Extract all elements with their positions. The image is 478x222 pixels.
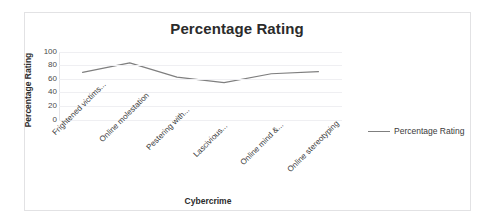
gridline xyxy=(59,106,342,107)
gridline xyxy=(59,92,342,93)
plot-area xyxy=(59,52,342,120)
legend-label: Percentage Rating xyxy=(394,126,464,136)
y-tick-label: 0 xyxy=(53,116,57,124)
y-tick-label: 20 xyxy=(48,102,57,110)
gridline xyxy=(59,120,342,121)
y-tick-label: 40 xyxy=(48,88,57,96)
chart-page: Percentage Rating Percentage Rating 1008… xyxy=(0,0,478,222)
gridline xyxy=(59,65,342,66)
gridline xyxy=(59,79,342,80)
chart-legend: Percentage Rating xyxy=(368,126,464,136)
x-axis-title: Cybercrime xyxy=(133,196,283,206)
y-axis-title: Percentage Rating xyxy=(23,50,33,130)
y-tick-label: 60 xyxy=(48,75,57,83)
cropped-header-text xyxy=(0,0,478,9)
legend-line-marker xyxy=(368,131,390,132)
chart-title: Percentage Rating xyxy=(112,20,362,37)
y-axis-tick-labels: 100806040200 xyxy=(33,46,57,126)
gridline xyxy=(59,52,342,53)
series-percentage-rating xyxy=(59,52,342,120)
y-tick-label: 80 xyxy=(48,61,57,69)
y-tick-label: 100 xyxy=(44,48,57,56)
